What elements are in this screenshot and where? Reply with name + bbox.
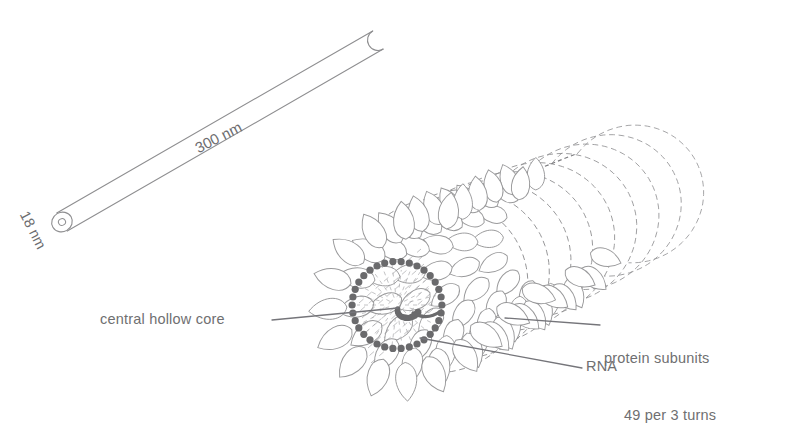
protein-subunit-shapes xyxy=(308,157,624,401)
label-protein-subunits: protein subunits 49 per 3 turns xyxy=(604,311,716,427)
label-protein-subunits-line2: 49 per 3 turns xyxy=(604,406,716,425)
label-central-hollow-core: central hollow core xyxy=(100,311,225,327)
label-protein-subunits-line1: protein subunits xyxy=(604,349,716,368)
